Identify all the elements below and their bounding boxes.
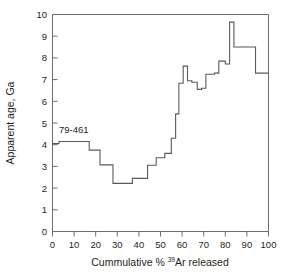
x-tick-label-100: 100 <box>261 239 277 250</box>
x-axis-title-part1: Cummulative % <box>91 256 167 268</box>
age-spectrum-staircase <box>53 22 269 183</box>
figure-container: 0 1 2 3 4 5 6 7 8 9 10 0 <box>0 0 293 277</box>
y-tick-label-2: 2 <box>42 183 47 194</box>
y-axis-tick-labels: 0 1 2 3 4 5 6 7 8 9 10 <box>36 9 47 237</box>
x-tick-label-40: 40 <box>134 239 145 250</box>
x-axis-tick-labels: 0 10 20 30 40 50 60 70 80 90 100 <box>50 239 277 250</box>
x-tick-label-50: 50 <box>155 239 166 250</box>
x-axis-title: Cummulative % 39Ar released <box>91 256 229 268</box>
y-tick-label-4: 4 <box>42 139 47 150</box>
y-tick-label-10: 10 <box>36 9 47 20</box>
y-axis-ticks <box>53 15 58 232</box>
x-tick-label-30: 30 <box>112 239 123 250</box>
x-tick-label-20: 20 <box>90 239 101 250</box>
x-tick-label-60: 60 <box>177 239 188 250</box>
x-tick-label-70: 70 <box>198 239 209 250</box>
y-tick-label-5: 5 <box>42 118 47 129</box>
y-tick-label-7: 7 <box>42 74 47 85</box>
y-axis-title: Apparent age, Ga <box>4 81 16 164</box>
x-tick-label-10: 10 <box>69 239 80 250</box>
figure-bottom-margin <box>0 272 293 277</box>
y-tick-label-6: 6 <box>42 96 47 107</box>
y-tick-label-0: 0 <box>42 226 47 237</box>
x-axis-ticks <box>53 232 269 237</box>
y-tick-label-9: 9 <box>42 31 47 42</box>
x-tick-label-0: 0 <box>50 239 55 250</box>
age-spectrum-chart: 0 1 2 3 4 5 6 7 8 9 10 0 <box>0 0 293 277</box>
sample-label-annotation: 79-461 <box>59 124 89 135</box>
y-tick-label-1: 1 <box>42 204 47 215</box>
x-tick-label-90: 90 <box>242 239 253 250</box>
x-tick-label-80: 80 <box>220 239 231 250</box>
y-tick-label-3: 3 <box>42 161 47 172</box>
y-tick-label-8: 8 <box>42 52 47 63</box>
x-axis-title-part2: Ar released <box>175 256 229 268</box>
